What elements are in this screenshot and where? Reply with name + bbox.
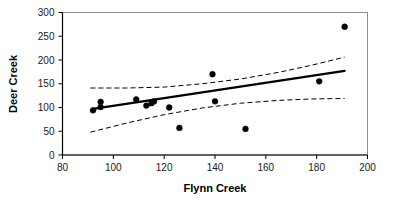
x-tick-label: 120 [156,162,173,173]
y-tick-label: 100 [38,102,55,113]
data-point [98,99,104,105]
y-tick-label: 200 [38,55,55,66]
x-tick-label: 160 [257,162,274,173]
y-tick-label: 250 [38,31,55,42]
data-point [98,104,104,110]
y-tick-label: 150 [38,78,55,89]
x-tick-label: 100 [105,162,122,173]
x-axis-title: Flynn Creek [184,182,248,194]
y-tick-label: 50 [43,126,55,137]
data-point [212,98,218,104]
x-tick-label: 200 [359,162,376,173]
scatter-plot: 80100120140160180200 050100150200250300 … [0,0,397,203]
data-point [151,98,157,104]
data-point [316,78,322,84]
data-point [90,107,96,113]
x-tick-label: 140 [207,162,224,173]
x-tick-label: 180 [308,162,325,173]
y-tick-label: 300 [38,7,55,18]
chart-figure: 80100120140160180200 050100150200250300 … [0,0,397,203]
data-point [342,24,348,30]
data-point [177,125,183,131]
y-axis-ticks: 050100150200250300 [38,7,63,161]
data-point [210,71,216,77]
data-point [243,126,249,132]
x-tick-label: 80 [57,162,69,173]
y-axis-title: Deer Creek [7,54,19,113]
data-point [166,105,172,111]
x-axis-ticks: 80100120140160180200 [57,155,376,173]
y-tick-label: 0 [49,150,55,161]
data-point [133,97,139,103]
plot-frame [63,13,368,156]
